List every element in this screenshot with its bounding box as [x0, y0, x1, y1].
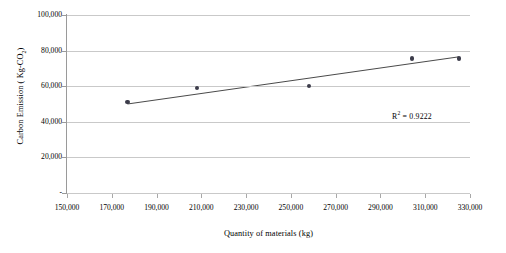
r-squared-annotation: R2 = 0.9222 [392, 110, 432, 121]
x-axis-tickmark [470, 194, 471, 198]
x-axis-tickmark [380, 194, 381, 198]
x-axis-tickmark [112, 194, 113, 198]
x-axis-tick-label: 230,000 [234, 204, 259, 212]
x-axis-tick-label: 310,000 [413, 204, 438, 212]
x-axis-tick-label: 330,000 [458, 204, 483, 212]
x-axis-tickmark [67, 194, 68, 198]
y-axis-tick-label: 20,000 [16, 153, 62, 161]
gridline [67, 51, 470, 52]
trendline [127, 57, 458, 104]
data-point [457, 56, 461, 60]
gridline [67, 122, 470, 123]
gridline [67, 157, 470, 158]
y-axis-tick-label: 40,000 [16, 118, 62, 126]
x-axis-tick-label: 150,000 [55, 204, 80, 212]
gridline [67, 15, 470, 16]
x-axis-tickmark [291, 194, 292, 198]
gridline [67, 86, 470, 87]
y-axis-tick-label: 100,000 [16, 11, 62, 19]
gridline [67, 193, 470, 194]
x-axis-tick-label: 210,000 [189, 204, 214, 212]
x-axis-tick-label: 270,000 [323, 204, 348, 212]
carbon-emission-scatter-chart: Carbon Emission ( Kg-CO2) -20,00040,0006… [0, 0, 506, 253]
x-axis-title: Quantity of materials (kg) [67, 229, 470, 238]
y-axis-tick-label: - [16, 189, 62, 197]
y-axis-tickmark [62, 122, 67, 123]
y-axis-tickmark [62, 51, 67, 52]
x-axis-tick-label: 290,000 [368, 204, 393, 212]
x-axis-tick-label: 250,000 [279, 204, 304, 212]
x-axis-tickmark [246, 194, 247, 198]
data-point [410, 56, 414, 60]
x-axis-tickmark [201, 194, 202, 198]
y-axis-tick-label: 80,000 [16, 47, 62, 55]
plot-area [67, 15, 470, 193]
x-axis-tickmark [157, 194, 158, 198]
y-axis-tickmark [62, 15, 67, 16]
y-axis-tick-labels: -20,00040,00060,00080,000100,000 [14, 0, 62, 253]
x-axis-tickmark [425, 194, 426, 198]
r-squared-value: = 0.9222 [400, 112, 432, 121]
y-axis-tickmark [62, 86, 67, 87]
x-axis-tick-label: 190,000 [144, 204, 169, 212]
x-axis-tick-label: 170,000 [99, 204, 124, 212]
x-axis-tickmark [336, 194, 337, 198]
y-axis-tick-label: 60,000 [16, 82, 62, 90]
y-axis-tickmark [62, 157, 67, 158]
